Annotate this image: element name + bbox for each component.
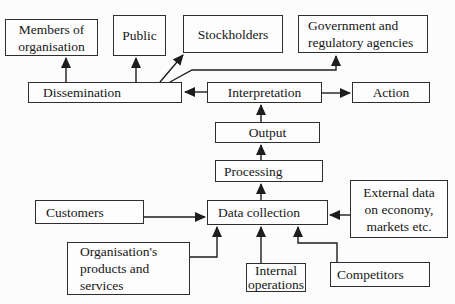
arrow-dissemination-to-government <box>170 56 336 82</box>
box-label: Interpretation <box>208 84 321 101</box>
box-label: Members of organisation <box>6 21 97 55</box>
box-label: Output <box>216 124 319 141</box>
diagram-canvas: Members of organisation Public Stockhold… <box>0 0 455 304</box>
box-label: Processing <box>224 163 322 180</box>
box-processing: Processing <box>215 160 323 182</box>
box-interpretation: Interpretation <box>207 82 322 103</box>
box-public: Public <box>113 15 166 56</box>
box-data-collection: Data collection <box>207 200 328 225</box>
box-label: Public <box>114 27 165 44</box>
box-label: Government and regulatory agencies <box>308 17 427 51</box>
arrow-competitors-to-datacollection <box>298 227 337 262</box>
box-dissemination: Dissemination <box>28 82 182 103</box>
box-members-of-organisation: Members of organisation <box>5 19 98 56</box>
box-output: Output <box>215 122 320 143</box>
box-label: Customers <box>46 204 143 221</box>
box-label: Stockholders <box>184 26 282 43</box>
box-label: Action <box>353 84 429 101</box>
box-label: Internal operations <box>247 264 305 292</box>
box-external-data: External data on economy, markets etc. <box>350 180 448 238</box>
box-label: External data on economy, markets etc. <box>351 184 447 235</box>
arrow-dissemination-to-stockholders <box>160 55 183 82</box>
box-action: Action <box>352 82 430 103</box>
box-label: Data collection <box>218 204 327 221</box>
box-customers: Customers <box>35 200 144 224</box>
box-label: Organisation's products and services <box>80 243 189 294</box>
box-stockholders: Stockholders <box>183 15 283 53</box>
box-organisations-products-services: Organisation's products and services <box>67 242 190 295</box>
box-government-regulatory-agencies: Government and regulatory agencies <box>298 15 428 53</box>
box-label: Competitors <box>337 266 429 283</box>
box-internal-operations: Internal operations <box>246 263 306 292</box>
arrow-orgproducts-to-datacollection <box>190 227 217 257</box>
box-competitors: Competitors <box>330 262 430 287</box>
box-label: Dissemination <box>43 84 181 101</box>
